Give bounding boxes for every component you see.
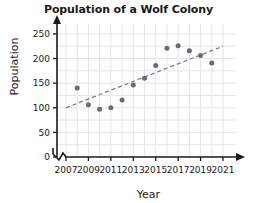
- x-tick-label: 2011: [99, 165, 122, 175]
- y-tick-label: 100: [33, 103, 50, 113]
- x-tick-label: 2007: [55, 165, 78, 175]
- data-point: [97, 107, 102, 112]
- data-point: [108, 105, 113, 110]
- data-point: [164, 46, 169, 51]
- y-tick-label: 150: [33, 78, 50, 88]
- y-tick-label: 200: [33, 54, 50, 64]
- y-axis-arrowhead: [53, 15, 61, 24]
- x-tick-label: 2021: [212, 165, 235, 175]
- data-point: [142, 76, 147, 81]
- y-tick-label: 0: [44, 152, 50, 162]
- data-point: [120, 97, 125, 102]
- scatter-plot: 050100150200250 200720092011201320152017…: [0, 0, 257, 203]
- data-point: [209, 60, 214, 65]
- data-point: [198, 53, 203, 58]
- y-axis-ticks: 050100150200250: [33, 29, 57, 162]
- x-tick-label: 2017: [167, 165, 190, 175]
- y-tick-label: 50: [39, 128, 51, 138]
- grid-lines: [57, 24, 236, 157]
- y-tick-label: 250: [33, 29, 50, 39]
- x-tick-label: 2019: [189, 165, 212, 175]
- data-point: [86, 102, 91, 107]
- data-point: [176, 43, 181, 48]
- x-axis-line-with-break: [53, 148, 239, 160]
- x-axis-arrowhead: [236, 153, 245, 161]
- x-tick-label: 2015: [144, 165, 167, 175]
- x-tick-label: 2009: [77, 165, 100, 175]
- x-axis-ticks: 20072009201120132015201720192021: [55, 157, 235, 175]
- data-point: [131, 83, 136, 88]
- data-point: [75, 86, 80, 91]
- x-tick-label: 2013: [122, 165, 145, 175]
- axis-lines: [53, 15, 245, 161]
- data-point: [153, 63, 158, 68]
- data-point: [187, 48, 192, 53]
- chart-container: Population of a Wolf Colony Population Y…: [0, 0, 257, 203]
